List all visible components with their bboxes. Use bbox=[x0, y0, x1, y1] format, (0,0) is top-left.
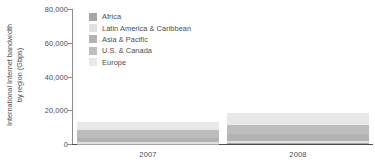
legend-label: Latin America & Caribbean bbox=[102, 24, 191, 33]
x-axis-line bbox=[72, 144, 373, 145]
y-axis-tick-labels: 80,000 60,000 40,000 20,000 0 bbox=[22, 0, 68, 166]
y-tick-label-40000: 40,000 bbox=[22, 72, 68, 81]
legend-label: Asia & Pacific bbox=[102, 35, 148, 44]
legend-item[interactable]: Africa bbox=[89, 11, 191, 22]
y-axis-title-line-1: International Internet bandwidth bbox=[5, 24, 15, 126]
legend-label: U.S. & Canada bbox=[102, 46, 152, 55]
legend-swatch-icon bbox=[89, 47, 97, 55]
y-tick-label-20000: 20,000 bbox=[22, 106, 68, 115]
legend-swatch-icon bbox=[89, 58, 97, 66]
x-tick-label-2007: 2007 bbox=[73, 150, 223, 159]
legend-swatch-icon bbox=[89, 24, 97, 32]
stacked-bar[interactable] bbox=[77, 122, 219, 144]
y-tick-label-0: 0 bbox=[22, 140, 68, 149]
legend-label: Europe bbox=[102, 58, 126, 67]
legend-label: Africa bbox=[102, 12, 121, 21]
bar-segment[interactable] bbox=[227, 113, 369, 125]
bar-segment[interactable] bbox=[77, 122, 219, 130]
stacked-bar[interactable] bbox=[227, 113, 369, 144]
bar-segment[interactable] bbox=[227, 125, 369, 134]
legend-item[interactable]: U.S. & Canada bbox=[89, 45, 191, 56]
y-tick-label-80000: 80,000 bbox=[22, 5, 68, 14]
x-tick-label-2008: 2008 bbox=[223, 150, 373, 159]
legend-swatch-icon bbox=[89, 13, 97, 21]
legend-item[interactable]: Latin America & Caribbean bbox=[89, 22, 191, 33]
legend-item[interactable]: Asia & Pacific bbox=[89, 34, 191, 45]
y-tick-label-60000: 60,000 bbox=[22, 38, 68, 47]
bar-segment[interactable] bbox=[227, 134, 369, 141]
legend-swatch-icon bbox=[89, 35, 97, 43]
legend-item[interactable]: Europe bbox=[89, 57, 191, 68]
bar-group[interactable] bbox=[227, 9, 369, 144]
chart-legend: AfricaLatin America & CaribbeanAsia & Pa… bbox=[89, 11, 191, 68]
bar-segment[interactable] bbox=[227, 143, 369, 144]
chart-container: International Internet bandwidth by regi… bbox=[0, 0, 375, 166]
bar-segment[interactable] bbox=[77, 130, 219, 138]
